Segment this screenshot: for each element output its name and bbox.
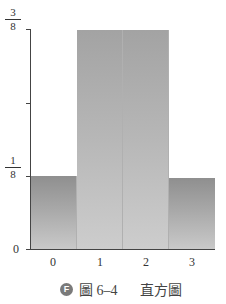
y-label-one-eighth-numerator: 1: [5, 155, 21, 168]
x-label-3: 3: [182, 255, 202, 270]
x-label-0: 0: [43, 255, 63, 270]
figure-number: 圖 6–4: [79, 279, 118, 299]
bar-2: [123, 30, 169, 249]
y-tick-one-quarter: [26, 103, 31, 104]
y-label-one-eighth: 1 8: [5, 155, 21, 180]
y-label-three-eighths-numerator: 3: [5, 7, 21, 20]
figure-title: 直方圖: [140, 279, 182, 299]
histogram-chart: 3 8 1 8 0 0 1 2 3: [0, 0, 226, 275]
bar-1: [77, 30, 123, 249]
y-label-one-eighth-denominator: 8: [5, 168, 21, 180]
y-label-three-eighths: 3 8: [5, 7, 21, 32]
bar-3: [169, 178, 215, 249]
y-label-three-eighths-denominator: 8: [5, 20, 21, 32]
x-label-1: 1: [90, 255, 110, 270]
x-axis: [26, 249, 215, 250]
figure-caption: F 圖 6–4 直方圖: [60, 280, 182, 298]
y-tick-three-eighths: [26, 29, 31, 30]
y-label-zero: 0: [13, 242, 19, 257]
x-label-2: 2: [136, 255, 156, 270]
y-tick-one-eighth: [26, 176, 31, 177]
bar-0: [31, 176, 77, 249]
figure-f-badge-icon: F: [60, 283, 73, 296]
y-axis: [30, 29, 31, 250]
